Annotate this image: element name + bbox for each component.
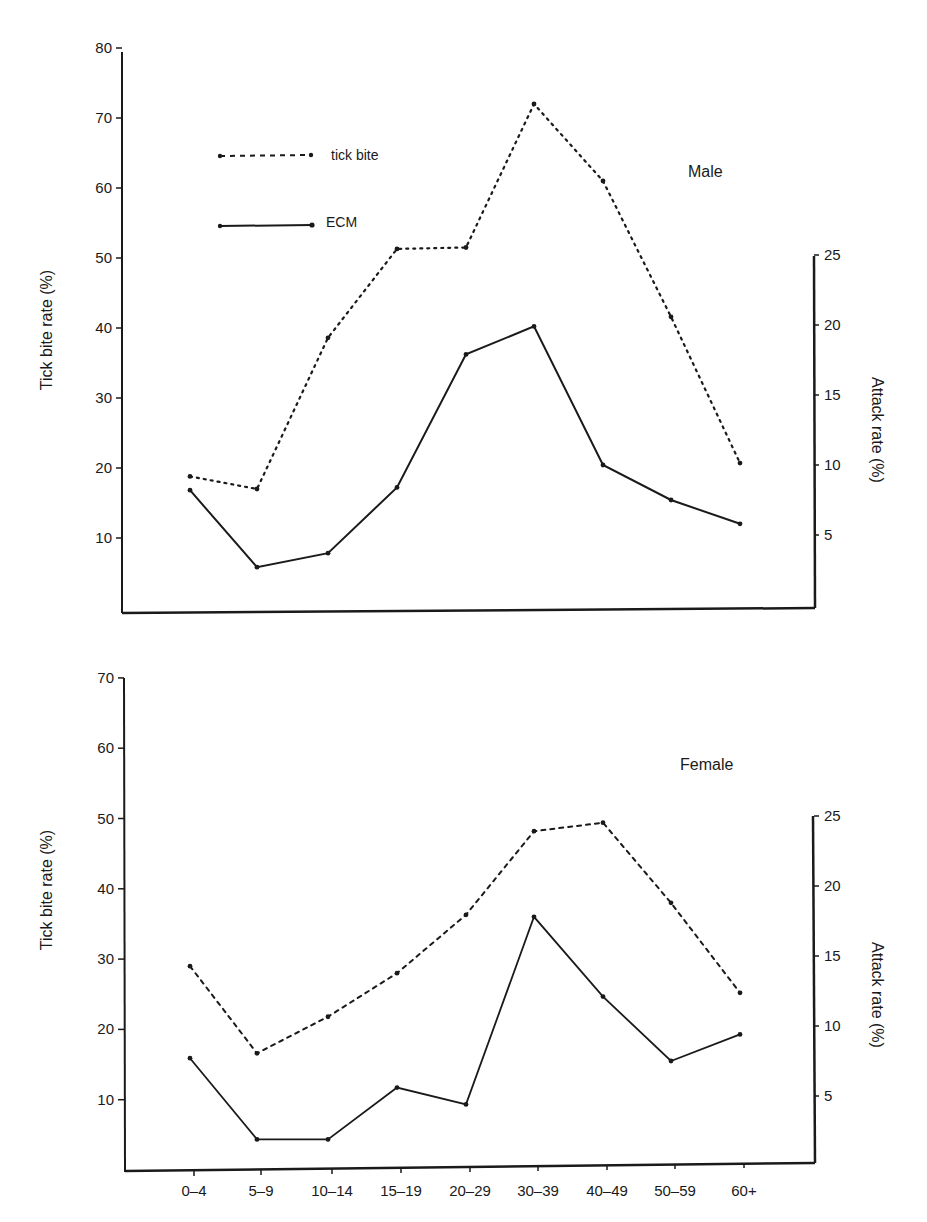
tick-bite-point	[738, 990, 743, 995]
male-right-axis	[814, 256, 815, 608]
ecm-point	[601, 463, 606, 468]
tick-bite-point	[188, 474, 193, 479]
female-panel-label: Female	[680, 756, 733, 773]
ecm-point	[188, 1056, 193, 1061]
ecm-point	[464, 352, 469, 357]
y2-tick-label: 25	[824, 807, 841, 824]
male-panel-label: Male	[688, 163, 723, 180]
y2-tick-label: 5	[824, 526, 832, 543]
ecm-point	[738, 1032, 743, 1037]
tick-bite-point	[464, 245, 469, 250]
ecm-point	[669, 498, 674, 503]
y-tick-label: 20	[97, 1020, 114, 1037]
tick-bite-point	[532, 102, 537, 107]
y2-tick-label: 20	[824, 316, 841, 333]
ecm-point	[395, 1085, 400, 1090]
y-tick-label: 60	[95, 179, 112, 196]
legend-tick-bite-label: tick bite	[331, 147, 379, 163]
female-left-ticks: 10203040506070	[97, 669, 124, 1108]
y-tick-label: 80	[95, 39, 112, 56]
y-tick-label: 30	[95, 389, 112, 406]
tick-bite-point	[395, 971, 400, 976]
legend: tick bite ECM	[218, 147, 379, 230]
male-y-axis-title: Tick bite rate (%)	[38, 270, 55, 390]
tick-bite-point	[326, 335, 331, 340]
female-left-axis	[124, 678, 125, 1172]
ecm-point	[255, 1137, 260, 1142]
tick-bite-point	[669, 900, 674, 905]
female-right-ticks: 510152025	[814, 807, 841, 1104]
y-tick-label: 60	[97, 739, 114, 756]
tick-bite-point	[326, 1014, 331, 1019]
y-tick-label: 70	[97, 669, 114, 686]
tick-bite-point	[395, 247, 400, 252]
legend-ecm-swatch	[220, 225, 312, 226]
y-tick-label: 10	[97, 1091, 114, 1108]
ecm-point	[188, 488, 193, 493]
y-tick-label: 50	[95, 249, 112, 266]
female-y2-axis-title: Attack rate (%)	[869, 942, 886, 1048]
y2-tick-label: 10	[824, 456, 841, 473]
ecm-point	[601, 994, 606, 999]
y-tick-label: 40	[97, 880, 114, 897]
y2-tick-label: 20	[824, 877, 841, 894]
tick-bite-point	[255, 1051, 260, 1056]
male-x-axis	[122, 608, 815, 613]
female-data-markers	[188, 820, 743, 1141]
tick-bite-point	[464, 912, 469, 917]
y2-tick-label: 10	[824, 1017, 841, 1034]
male-right-ticks: 510152025	[814, 246, 841, 543]
x-tick-label: 40–49	[586, 1182, 628, 1199]
legend-tick-bite-swatch	[220, 155, 311, 156]
x-tick-label: 60+	[731, 1182, 757, 1199]
ecm-point	[532, 324, 537, 329]
chart-figure: 1020304050607080 510152025 Tick bite rat…	[0, 0, 927, 1222]
tick-bite-point	[669, 314, 674, 319]
tick-bite-point	[738, 461, 743, 466]
ecm-point	[669, 1059, 674, 1064]
x-tick-label: 20–29	[449, 1182, 491, 1199]
legend-ecm-label: ECM	[326, 214, 357, 230]
male-ecm-line	[190, 326, 740, 567]
ecm-point	[738, 521, 743, 526]
female-right-axis	[813, 816, 815, 1163]
y-tick-label: 30	[97, 950, 114, 967]
male-tick-bite-line	[190, 104, 740, 489]
ecm-point	[395, 485, 400, 490]
x-tick-label: 15–19	[380, 1182, 422, 1199]
y2-tick-label: 5	[824, 1087, 832, 1104]
ecm-point	[532, 914, 537, 919]
tick-bite-point	[255, 487, 260, 492]
tick-bite-point	[601, 820, 606, 825]
y2-tick-label: 25	[824, 246, 841, 263]
y-tick-label: 20	[95, 459, 112, 476]
female-panel: 10203040506070 510152025 0–45–910–1415–1…	[38, 669, 886, 1199]
tick-bite-point	[532, 829, 537, 834]
tick-bite-point	[601, 179, 606, 184]
tick-bite-point	[188, 964, 193, 969]
y-tick-label: 10	[95, 529, 112, 546]
female-tick-bite-line	[190, 823, 740, 1054]
y-tick-label: 70	[95, 109, 112, 126]
y-tick-label: 50	[97, 810, 114, 827]
ecm-point	[326, 551, 331, 556]
female-y-axis-title: Tick bite rate (%)	[38, 830, 55, 950]
ecm-point	[464, 1102, 469, 1107]
x-tick-label: 10–14	[311, 1182, 353, 1199]
ecm-point	[255, 565, 260, 570]
x-tick-label: 5–9	[248, 1182, 273, 1199]
y2-tick-label: 15	[824, 947, 841, 964]
x-tick-label: 0–4	[181, 1182, 206, 1199]
y-tick-label: 40	[95, 319, 112, 336]
ecm-point	[326, 1137, 331, 1142]
y2-tick-label: 15	[824, 386, 841, 403]
male-left-ticks: 1020304050607080	[95, 39, 122, 546]
male-panel: 1020304050607080 510152025 Tick bite rat…	[38, 39, 886, 613]
x-tick-label: 50–59	[654, 1182, 696, 1199]
male-data-markers	[188, 102, 743, 570]
x-tick-label: 30–39	[517, 1182, 559, 1199]
male-y2-axis-title: Attack rate (%)	[869, 377, 886, 483]
